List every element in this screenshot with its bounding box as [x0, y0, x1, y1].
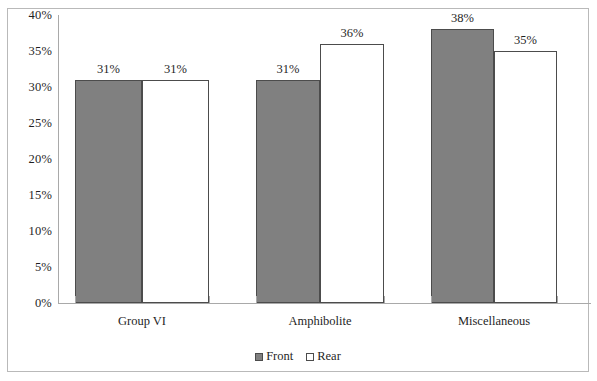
legend-label: Rear	[317, 349, 341, 364]
x-axis-separator-tick	[209, 296, 210, 303]
chart-frame: 0%5%10%15%20%25%30%35%40% 31%31%31%36%38…	[7, 8, 589, 372]
bar-value-label: 36%	[341, 26, 364, 41]
x-axis-category-label: Group VI	[75, 314, 209, 329]
plot-area: 31%31%31%36%38%35%	[58, 15, 589, 303]
y-axis-tick-label: 20%	[28, 152, 52, 167]
bar-value-label: 38%	[451, 11, 474, 26]
y-axis-tick-label: 25%	[28, 116, 52, 131]
legend-swatch-front-icon	[255, 353, 263, 361]
x-axis-separator-tick	[75, 296, 76, 303]
bar-front[interactable]: 31%	[256, 80, 320, 303]
bar-front[interactable]: 31%	[75, 80, 142, 303]
y-axis-tick-label: 0%	[35, 296, 52, 311]
bar-group-bars: 31%31%	[75, 15, 209, 303]
y-axis-tick-label: 5%	[35, 260, 52, 275]
bar-rear[interactable]: 31%	[142, 80, 209, 303]
bar-rear[interactable]: 35%	[494, 51, 557, 303]
x-axis-category-label: Miscellaneous	[431, 314, 557, 329]
y-axis-tick-label: 30%	[28, 80, 52, 95]
x-axis-separator-tick	[256, 296, 257, 303]
y-axis-tick-label: 40%	[28, 8, 52, 23]
x-axis-category-label: Amphibolite	[256, 314, 384, 329]
y-axis-tick-label: 10%	[28, 224, 52, 239]
x-axis-line	[58, 303, 591, 304]
bar-group-bars: 31%36%	[256, 15, 384, 303]
bar-value-label: 31%	[164, 62, 187, 77]
y-axis-tick-label: 35%	[28, 44, 52, 59]
legend-swatch-rear-icon	[306, 353, 314, 361]
bar-group: 31%36%	[256, 15, 384, 303]
bar-value-label: 31%	[97, 62, 120, 77]
bar-value-label: 31%	[277, 62, 300, 77]
legend-item-front[interactable]: Front	[255, 349, 293, 364]
x-axis-separator-tick	[384, 296, 385, 303]
y-axis-tick-label: 15%	[28, 188, 52, 203]
chart-legend: FrontRear	[8, 349, 588, 364]
bar-group-bars: 38%35%	[431, 15, 557, 303]
bar-value-label: 35%	[514, 33, 537, 48]
bar-rear[interactable]: 36%	[320, 44, 384, 303]
legend-label: Front	[266, 349, 293, 364]
bar-group: 31%31%	[75, 15, 209, 303]
bar-group: 38%35%	[431, 15, 557, 303]
x-axis-separator-tick	[431, 296, 432, 303]
bar-front[interactable]: 38%	[431, 29, 494, 303]
x-axis-separator-tick	[557, 296, 558, 303]
legend-item-rear[interactable]: Rear	[306, 349, 341, 364]
